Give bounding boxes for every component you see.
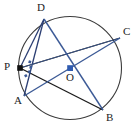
segment-D-P bbox=[20, 19, 44, 68]
geometry-canvas bbox=[0, 0, 137, 134]
point-label-O: O bbox=[66, 72, 74, 83]
segment-D-B bbox=[44, 19, 103, 110]
point-label-A: A bbox=[14, 95, 22, 106]
point-label-B: B bbox=[106, 112, 113, 123]
geometry-figure: D C P O A B bbox=[0, 0, 137, 134]
point-label-P: P bbox=[4, 61, 10, 72]
vertex-dot-P bbox=[17, 65, 23, 71]
point-label-D: D bbox=[37, 2, 45, 13]
point-label-C: C bbox=[123, 26, 130, 37]
